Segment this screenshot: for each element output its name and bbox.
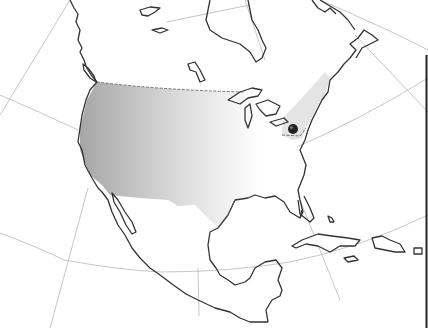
map-canvas [0, 0, 428, 328]
location-marker[interactable] [288, 124, 298, 134]
map-container: North America [0, 0, 428, 328]
west-us-region [80, 82, 305, 228]
